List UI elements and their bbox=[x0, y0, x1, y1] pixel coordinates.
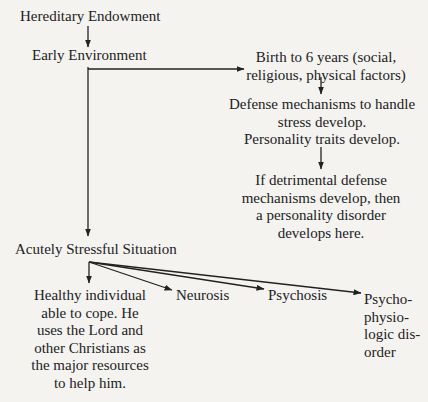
node-line: a personality disorder bbox=[236, 207, 406, 225]
node-line: to help him. bbox=[26, 375, 154, 393]
node-line: If detrimental defense bbox=[236, 172, 406, 190]
node-line: Birth to 6 years (social, bbox=[246, 49, 406, 67]
node-line: physio- bbox=[364, 309, 420, 327]
arrow-acute-to-psychosis bbox=[89, 262, 264, 289]
node-line: order bbox=[364, 344, 420, 362]
node-line: religious, physical factors) bbox=[246, 67, 406, 85]
node-line: the major resources bbox=[26, 357, 154, 375]
node-line: other Christians as bbox=[26, 340, 154, 358]
node-neurosis: Neurosis bbox=[176, 287, 229, 305]
node-line: Defense mechanisms to handle bbox=[226, 96, 418, 114]
node-line: stress develop. bbox=[226, 114, 418, 132]
node-healthy-individual: Healthy individual able to cope. He uses… bbox=[26, 287, 154, 392]
node-label: Acutely Stressful Situation bbox=[15, 241, 177, 257]
node-defense-mechanisms: Defense mechanisms to handle stress deve… bbox=[226, 96, 418, 149]
node-hereditary-endowment: Hereditary Endowment bbox=[20, 8, 160, 26]
node-label: Early Environment bbox=[32, 47, 147, 63]
node-label: Psychosis bbox=[268, 287, 327, 303]
node-label: Neurosis bbox=[176, 287, 229, 303]
node-line: Psycho- bbox=[364, 291, 420, 309]
node-label: Hereditary Endowment bbox=[20, 8, 160, 24]
node-psychosis: Psychosis bbox=[268, 287, 327, 305]
node-line: Personality traits develop. bbox=[226, 131, 418, 149]
node-line: Healthy individual bbox=[26, 287, 154, 305]
node-line: able to cope. He bbox=[26, 305, 154, 323]
node-acutely-stressful-situation: Acutely Stressful Situation bbox=[15, 241, 177, 259]
node-detrimental-defense: If detrimental defense mechanisms develo… bbox=[236, 172, 406, 242]
node-line: uses the Lord and bbox=[26, 322, 154, 340]
node-psychophysiologic-disorder: Psycho- physio- logic dis- order bbox=[364, 291, 420, 361]
node-line: mechanisms develop, then bbox=[236, 190, 406, 208]
node-line: logic dis- bbox=[364, 326, 420, 344]
node-early-environment: Early Environment bbox=[32, 47, 147, 65]
node-line: develops here. bbox=[236, 225, 406, 243]
node-birth-to-six: Birth to 6 years (social, religious, phy… bbox=[246, 49, 406, 84]
